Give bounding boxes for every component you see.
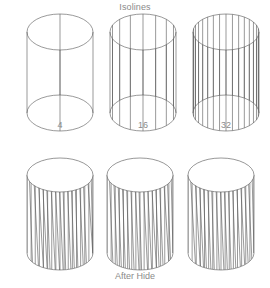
top-cap — [27, 158, 93, 192]
figure-title: Isolines — [0, 1, 270, 13]
isolines-figure: Isolines 41632 After Hide — [0, 0, 270, 288]
after-hide-caption: After Hide — [0, 270, 270, 282]
cylinder-label: 32 — [221, 120, 231, 130]
cylinder-label: 16 — [138, 120, 148, 130]
top-cap — [188, 158, 254, 192]
top-cap — [107, 158, 173, 192]
cylinder-1-2 — [188, 158, 254, 270]
cylinder-0-0 — [27, 14, 93, 131]
cylinder-row-hidden-line-row — [27, 158, 254, 270]
cylinder-canvas: 41632 — [0, 0, 270, 288]
cylinder-row-wireframe-row: 41632 — [27, 14, 259, 131]
cylinder-0-2 — [193, 14, 259, 131]
cylinder-1-1 — [107, 158, 173, 270]
cylinder-1-0 — [27, 158, 93, 270]
cylinder-label: 4 — [57, 120, 62, 130]
cylinder-0-1 — [110, 14, 176, 131]
